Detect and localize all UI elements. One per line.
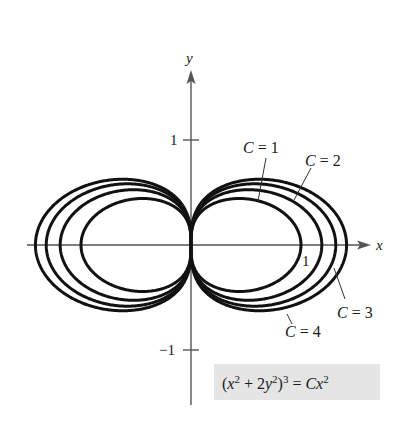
y-tick-label-1: 1 [170, 132, 178, 148]
y-axis-label: y [184, 50, 193, 66]
axes [27, 70, 371, 405]
x-axis-label: x [375, 237, 383, 253]
y-tick-label-neg1: −1 [159, 342, 175, 358]
label-c3: C = 3 [337, 304, 373, 321]
level-curves-plot: y x 1 −1 1 C = 1 C = 2 C = 3 C = 4 (x2 +… [0, 0, 404, 430]
label-c1: C = 1 [243, 139, 279, 156]
x-tick-label-1: 1 [302, 253, 310, 269]
label-c2: C = 2 [305, 152, 341, 169]
label-c4: C = 4 [285, 323, 321, 340]
